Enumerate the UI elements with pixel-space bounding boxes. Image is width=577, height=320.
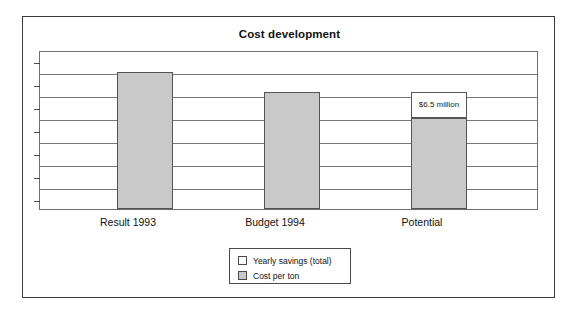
y-axis-tick [34, 86, 40, 87]
legend-item-label: Cost per ton [253, 271, 299, 281]
y-axis-tick [34, 155, 40, 156]
bar-result-1993[interactable] [117, 72, 173, 209]
bar-segment-cost-per-ton[interactable] [411, 118, 467, 209]
bar-segment-cost-per-ton[interactable] [264, 92, 320, 209]
y-axis-tick [34, 109, 40, 110]
x-axis-label-potential: Potential [378, 216, 466, 228]
legend-item-label: Yearly savings (total) [253, 256, 332, 266]
gray-swatch-icon [238, 271, 247, 280]
chart-title: Cost development [23, 28, 556, 40]
y-axis-tick [34, 63, 40, 64]
legend-item-cost-per-ton[interactable]: Cost per ton [238, 269, 350, 282]
legend-item-yearly-savings[interactable]: Yearly savings (total) [238, 254, 350, 267]
bar-value-label: $6.5 million [412, 101, 466, 109]
white-swatch-icon [238, 256, 247, 265]
gridline [40, 74, 537, 75]
x-axis-label-budget-1994: Budget 1994 [231, 216, 319, 228]
y-axis-tick [34, 201, 40, 202]
bar-potential[interactable]: $6.5 million [411, 92, 467, 209]
chart-figure-frame: Cost development $6.5 million [22, 16, 555, 298]
x-axis-label-result-1993: Result 1993 [84, 216, 172, 228]
bar-segment-yearly-savings[interactable]: $6.5 million [411, 92, 467, 118]
y-axis-tick [34, 178, 40, 179]
bar-segment-cost-per-ton[interactable] [117, 72, 173, 209]
plot-area: $6.5 million [39, 51, 538, 210]
chart-legend: Yearly savings (total) Cost per ton [229, 248, 351, 284]
y-axis-tick [34, 132, 40, 133]
bar-budget-1994[interactable] [264, 92, 320, 209]
